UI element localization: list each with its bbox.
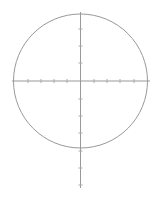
crosshair-diagram [0, 0, 158, 199]
